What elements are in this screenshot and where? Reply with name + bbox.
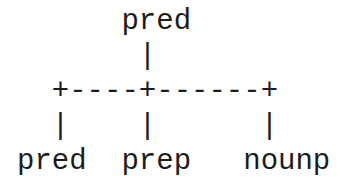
- child-connectors: | | |: [17, 109, 330, 144]
- child-nodes: pred prep nounp: [17, 144, 330, 179]
- ascii-tree-diagram: pred | +----+------+ | | |pred prep noun…: [17, 4, 330, 179]
- root-node-pred: pred: [17, 4, 330, 39]
- branch-line: +----+------+: [17, 74, 330, 109]
- root-connector: |: [17, 39, 330, 74]
